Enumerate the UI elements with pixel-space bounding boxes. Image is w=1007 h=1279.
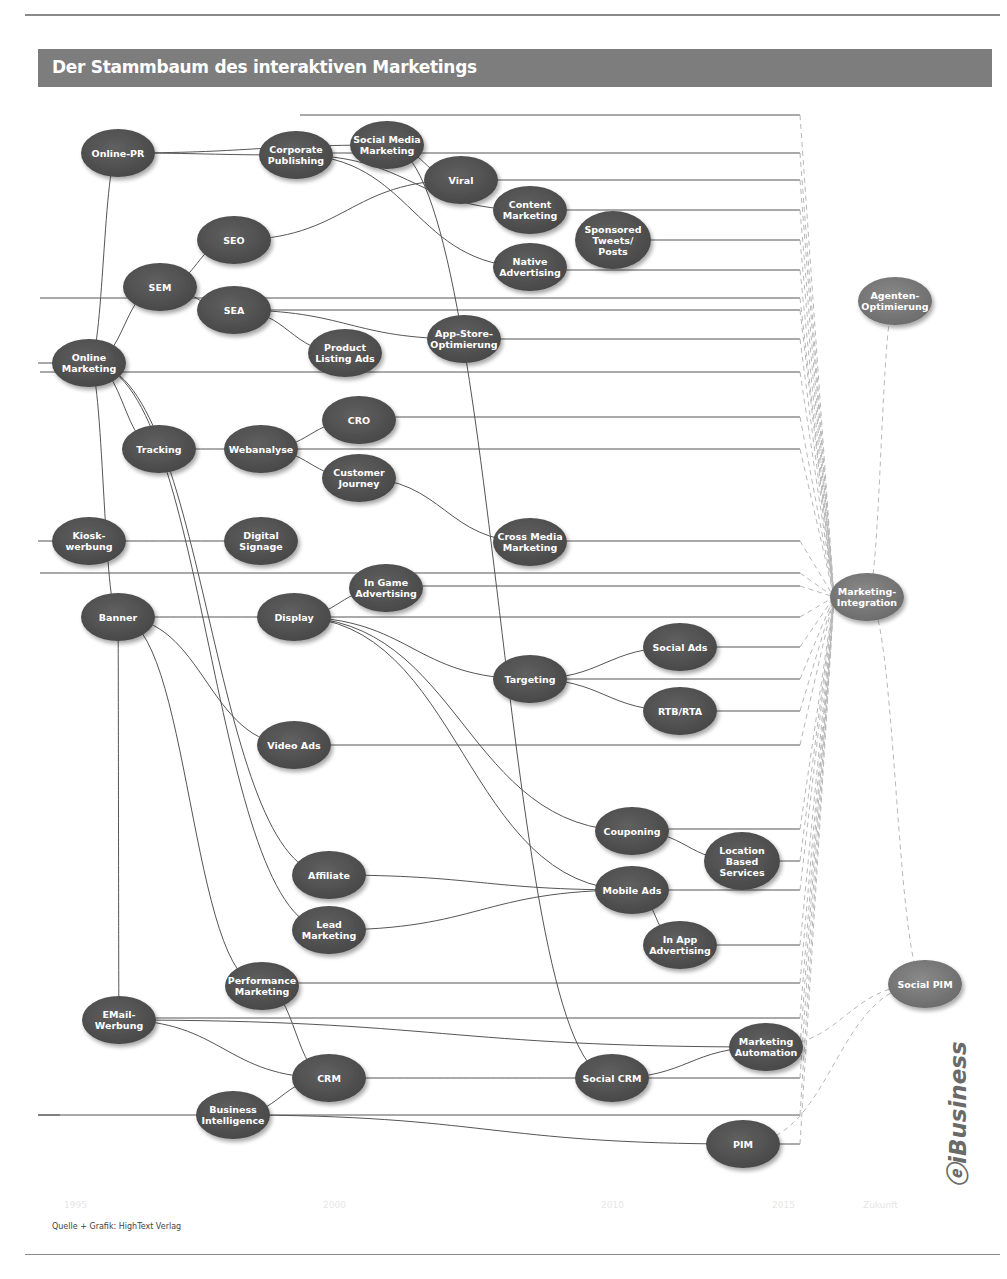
node-label: Targeting — [505, 674, 556, 685]
logo-text: ⓔiBusiness — [939, 1047, 973, 1187]
node-online-pr: Online-PR — [81, 129, 155, 177]
node-label: Integration — [837, 597, 898, 608]
node-label: Agenten- — [870, 290, 919, 301]
node-label: SEO — [223, 235, 244, 246]
node-marketing-integration: Marketing-Integration — [830, 573, 904, 621]
node-viral: Viral — [424, 156, 498, 204]
node-label: Webanalyse — [229, 444, 294, 455]
node-sea: SEA — [197, 286, 271, 334]
integration-dashed-links — [800, 115, 834, 1144]
node-label: Marketing — [739, 1036, 793, 1047]
node-label: werbung — [65, 541, 112, 552]
node-label: Content — [509, 199, 552, 210]
node-label: Sponsored — [584, 224, 641, 235]
node-label: Intelligence — [201, 1115, 264, 1126]
node-label: Kiosk- — [72, 530, 105, 541]
node-label: Marketing — [235, 986, 289, 997]
bottom-rule — [25, 1254, 1000, 1255]
node-video-ads: Video Ads — [257, 721, 331, 769]
node-customer-journey: CustomerJourney — [322, 454, 396, 502]
node-label: Social Media — [353, 134, 421, 145]
node-label: Marketing- — [838, 586, 896, 597]
node-lead-marketing: LeadMarketing — [292, 906, 366, 954]
node-label: Social PIM — [897, 979, 952, 990]
node-seo: SEO — [197, 216, 271, 264]
node-label: Automation — [735, 1047, 798, 1058]
node-label: In App — [663, 934, 698, 945]
node-online-marketing: OnlineMarketing — [52, 339, 126, 387]
node-label: Customer — [333, 467, 385, 478]
node-label: Tracking — [136, 444, 181, 455]
node-label: Marketing — [503, 210, 557, 221]
node-label: Optimierung — [861, 301, 928, 312]
node-label: Marketing — [360, 145, 414, 156]
node-label: CRO — [348, 415, 370, 426]
node-sem: SEM — [123, 263, 197, 311]
node-label: Product — [324, 342, 366, 353]
node-content-marketing: ContentMarketing — [493, 186, 567, 234]
node-targeting: Targeting — [493, 655, 567, 703]
node-label: Online — [72, 352, 107, 363]
node-affiliate: Affiliate — [292, 851, 366, 899]
node-label: Online-PR — [92, 148, 145, 159]
node-label: Marketing — [62, 363, 116, 374]
node-label: Optimierung — [430, 339, 497, 350]
node-email: EMail-Werbung — [82, 996, 156, 1044]
node-label: SEM — [149, 282, 172, 293]
node-label: Business — [209, 1104, 257, 1115]
node-label: Lead — [316, 919, 342, 930]
node-label: SEA — [224, 305, 245, 316]
node-label: Banner — [99, 612, 138, 623]
node-label: Native — [513, 256, 548, 267]
node-label: Marketing — [503, 542, 557, 553]
family-tree-diagram: Online-PRCorporatePublishingSocial Media… — [0, 0, 1007, 1279]
node-label: Video Ads — [267, 740, 321, 751]
node-social-pim: Social PIM — [888, 960, 962, 1008]
node-label: Social Ads — [652, 642, 707, 653]
axis-label-2000: 2000 — [323, 1200, 346, 1210]
node-agenten: Agenten-Optimierung — [858, 277, 932, 325]
node-label: Advertising — [649, 945, 711, 956]
node-social-media-marketing: Social MediaMarketing — [350, 121, 424, 169]
node-couponing: Couponing — [595, 807, 669, 855]
node-location-based: LocationBasedServices — [704, 832, 780, 890]
node-social-ads: Social Ads — [643, 623, 717, 671]
node-label: Performance — [228, 975, 297, 986]
node-label: Werbung — [95, 1020, 143, 1031]
node-label: Posts — [598, 246, 628, 257]
node-label: Signage — [239, 541, 282, 552]
node-label: Digital — [243, 530, 278, 541]
node-label: Advertising — [499, 267, 561, 278]
node-corporate-publishing: CorporatePublishing — [259, 131, 333, 179]
node-label: Corporate — [269, 144, 323, 155]
node-performance-marketing: PerformanceMarketing — [225, 962, 299, 1010]
node-label: Listing Ads — [315, 353, 375, 364]
node-display: Display — [257, 593, 331, 641]
axis-label-future: Zukunft — [863, 1200, 898, 1210]
node-label: App-Store- — [435, 328, 493, 339]
node-label: Services — [719, 867, 764, 878]
tree-nodes: Online-PRCorporatePublishingSocial Media… — [52, 121, 962, 1168]
node-social-crm: Social CRM — [575, 1054, 649, 1102]
node-product-listing-ads: ProductListing Ads — [308, 329, 382, 377]
node-label: Journey — [338, 478, 381, 489]
node-label: EMail- — [103, 1009, 136, 1020]
node-pim: PIM — [706, 1120, 780, 1168]
node-kiosk: Kiosk-werbung — [52, 517, 126, 565]
node-digital-signage: DigitalSignage — [224, 517, 298, 565]
node-crm: CRM — [292, 1054, 366, 1102]
node-webanalyse: Webanalyse — [224, 425, 298, 473]
node-cross-media: Cross MediaMarketing — [493, 518, 567, 566]
logo-name: iBusiness — [945, 1041, 971, 1164]
axis-label-2015: 2015 — [772, 1200, 795, 1210]
node-label: In Game — [364, 577, 408, 588]
axis-label-1995: 1995 — [64, 1200, 87, 1210]
node-rtb-rta: RTB/RTA — [643, 687, 717, 735]
node-cro: CRO — [322, 396, 396, 444]
node-mobile-ads: Mobile Ads — [595, 866, 669, 914]
source-credit: Quelle + Grafik: HighText Verlag — [52, 1222, 181, 1231]
node-label: Advertising — [355, 588, 417, 599]
node-label: Publishing — [268, 155, 324, 166]
node-sponsored-tweets: SponsoredTweets/Posts — [575, 211, 651, 269]
node-label: Mobile Ads — [603, 885, 662, 896]
